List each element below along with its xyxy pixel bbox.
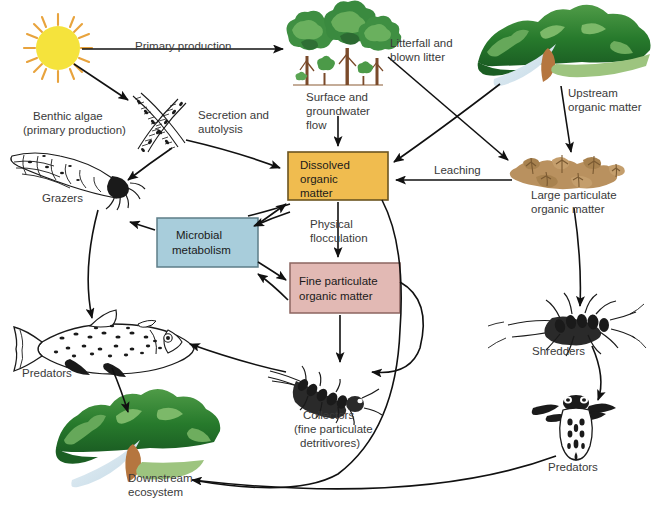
label-litterfall-line2: blown litter bbox=[390, 51, 445, 63]
arrow-collectors-to-fish bbox=[190, 344, 286, 372]
arrow-sun-to-algae bbox=[74, 64, 128, 100]
arrow-microbial-to-grazers bbox=[130, 222, 155, 230]
dom-label-line2: organic bbox=[300, 173, 338, 185]
label-grazers: Grazers bbox=[42, 192, 83, 204]
box-dissolved-organic-matter[interactable]: Dissolved organic matter bbox=[288, 152, 388, 200]
predators-insect-illustration bbox=[532, 395, 616, 461]
label-secretion-line1: Secretion and bbox=[198, 109, 269, 121]
benthic-algae-illustration bbox=[133, 93, 186, 153]
label-collectors-line3: detritivores) bbox=[300, 437, 360, 449]
fpom-label-line1: Fine particulate bbox=[299, 275, 378, 287]
label-lpom-line2: organic matter bbox=[531, 203, 605, 215]
arrow-algae-to-grazers bbox=[128, 148, 172, 180]
dom-label-line3: matter bbox=[300, 187, 333, 199]
label-benthic-line1: Benthic algae bbox=[33, 110, 103, 122]
upstream-valley-illustration bbox=[478, 5, 651, 87]
arrow-upstream-to-dom bbox=[394, 84, 500, 162]
label-flocculation-line2: flocculation bbox=[310, 232, 368, 244]
label-downstream-line2: ecosystem bbox=[128, 486, 183, 498]
label-surface-line2: groundwater bbox=[306, 105, 370, 117]
arrow-secretion-autolysis bbox=[186, 140, 280, 168]
dom-label-line1: Dissolved bbox=[300, 159, 350, 171]
large-particulate-organic-matter-illustration bbox=[510, 155, 625, 189]
label-collectors-line2: (fine particulate bbox=[294, 423, 373, 435]
label-predators-insect: Predators bbox=[548, 461, 598, 473]
microbial-label-line2: metabolism bbox=[172, 244, 231, 256]
label-shredders: Shredders bbox=[532, 345, 585, 357]
label-flocculation-line1: Physical bbox=[310, 218, 353, 230]
label-surface-line3: flow bbox=[306, 119, 327, 131]
fpom-label-line2: organic matter bbox=[299, 290, 373, 302]
label-upstream-line2: organic matter bbox=[568, 101, 642, 113]
arrow-shredders-to-predators bbox=[592, 346, 601, 400]
label-primary-production: Primary production bbox=[135, 40, 232, 52]
label-litterfall-line1: Litterfall and bbox=[390, 37, 453, 49]
label-leaching: Leaching bbox=[434, 164, 481, 176]
label-benthic-line2: (primary production) bbox=[23, 124, 126, 136]
microbial-label-line1: Microbial bbox=[176, 229, 222, 241]
diagram-canvas: Dissolved organic matter Microbial metab… bbox=[0, 0, 664, 511]
label-upstream-line1: Upstream bbox=[568, 87, 618, 99]
box-microbial-metabolism[interactable]: Microbial metabolism bbox=[157, 218, 258, 267]
arrow-predators-to-downstream bbox=[192, 456, 556, 489]
label-lpom-line1: Large particulate bbox=[531, 189, 617, 201]
box-fine-particulate-organic-matter[interactable]: Fine particulate organic matter bbox=[290, 263, 400, 313]
label-collectors-line1: Collectors bbox=[303, 409, 354, 421]
arrow-grazers-to-predators bbox=[88, 210, 98, 318]
label-secretion-line2: autolysis bbox=[198, 123, 243, 135]
label-downstream-line1: Downstream bbox=[128, 472, 193, 484]
arrow-lpom-to-shredders bbox=[574, 208, 580, 306]
sun-icon bbox=[24, 14, 92, 82]
ecosystem-diagram: Dissolved organic matter Microbial metab… bbox=[0, 0, 664, 511]
label-surface-line1: Surface and bbox=[306, 91, 368, 103]
forest-trees-illustration bbox=[287, 0, 402, 85]
label-predators-fish: Predators bbox=[22, 367, 72, 379]
